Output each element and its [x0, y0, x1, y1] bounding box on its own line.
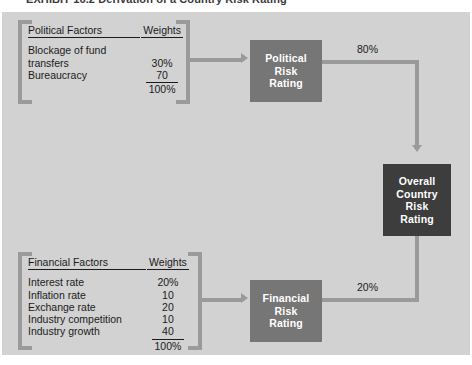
political-factors-header: Political Factors	[28, 24, 140, 38]
overall-box-line-3: Risk	[406, 200, 429, 213]
table-row: transfers 30%	[28, 57, 184, 69]
political-row-0-label-cont: transfers	[28, 57, 140, 69]
political-row-1-label: Bureaucracy	[28, 69, 140, 83]
overall-country-risk-rating-box: Overall Country Risk Rating	[383, 164, 451, 236]
table-row: Inflation rate 10	[28, 289, 190, 301]
connector-financial-to-overall-vertical	[415, 230, 419, 302]
financial-factors-table: Financial Factors Weights Interest rate …	[28, 256, 190, 352]
arrowhead-financial-box-in	[241, 293, 248, 303]
political-box-line-3: Rating	[269, 77, 303, 90]
financial-box-line-1: Financial	[263, 292, 310, 305]
overall-box-line-2: Country	[396, 188, 437, 201]
financial-factors-header: Financial Factors	[28, 256, 146, 270]
diagram-panel: Political Factors Weights Blockage of fu…	[2, 12, 470, 355]
financial-box-line-3: Rating	[269, 317, 303, 330]
political-box-line-1: Political	[265, 52, 307, 65]
financial-row-1-label: Inflation rate	[28, 289, 146, 301]
arrowhead-political-box-in	[241, 53, 248, 63]
political-weights-header: Weights	[141, 24, 183, 38]
table-total-row: 100%	[28, 340, 190, 352]
connector-financial-table-to-box	[202, 298, 242, 302]
financial-row-4-weight: 40	[152, 325, 184, 339]
table-row: Blockage of fund	[28, 44, 184, 56]
table-row: Industry growth 40	[28, 325, 190, 339]
financial-row-3-label: Industry competition	[28, 313, 146, 325]
exhibit-caption: EXHIBIT 16.2 Derivation of a Country Ris…	[26, 0, 287, 5]
political-risk-rating-box: Political Risk Rating	[250, 40, 322, 102]
table-row: Bureaucracy 70	[28, 69, 184, 83]
financial-risk-rating-box: Financial Risk Rating	[250, 280, 322, 342]
financial-bracket-right	[188, 252, 202, 350]
arrowhead-overall-top-in	[412, 145, 422, 152]
financial-row-2-weight: 20	[146, 301, 190, 313]
political-row-0-label: Blockage of fund	[28, 44, 140, 56]
table-row: Industry competition 10	[28, 313, 190, 325]
financial-box-line-2: Risk	[275, 305, 298, 318]
financial-row-3-weight: 10	[146, 313, 190, 325]
connector-financial-to-overall-horizontal	[322, 298, 419, 302]
financial-row-2-label: Exchange rate	[28, 301, 146, 313]
financial-row-0-label: Interest rate	[28, 276, 146, 288]
table-total-row: 100%	[28, 83, 184, 95]
table-row: Exchange rate 20	[28, 301, 190, 313]
financial-weights-header: Weights	[147, 256, 189, 270]
financial-weights-total: 100%	[152, 340, 185, 352]
political-row-1-weight: 70	[146, 69, 178, 83]
overall-box-line-4: Rating	[400, 213, 434, 226]
financial-row-0-weight: 20%	[146, 276, 190, 288]
overall-box-line-1: Overall	[399, 175, 436, 188]
connector-political-to-overall-horizontal	[322, 60, 419, 64]
table-row: Interest rate 20%	[28, 276, 190, 288]
table-header-row: Financial Factors Weights	[28, 256, 190, 271]
weight-political-to-overall: 80%	[357, 43, 378, 55]
table-header-row: Political Factors Weights	[28, 24, 184, 39]
political-weights-total: 100%	[146, 83, 179, 95]
connector-political-to-overall-vertical	[415, 60, 419, 148]
connector-political-table-to-box	[190, 58, 242, 62]
financial-row-4-label: Industry growth	[28, 325, 146, 339]
financial-row-1-weight: 10	[146, 289, 190, 301]
political-box-line-2: Risk	[275, 65, 298, 78]
political-row-0-weight: 30%	[140, 57, 184, 69]
exhibit-caption-strip: EXHIBIT 16.2 Derivation of a Country Ris…	[0, 0, 472, 11]
political-factors-table: Political Factors Weights Blockage of fu…	[28, 24, 184, 95]
weight-financial-to-overall: 20%	[357, 281, 378, 293]
